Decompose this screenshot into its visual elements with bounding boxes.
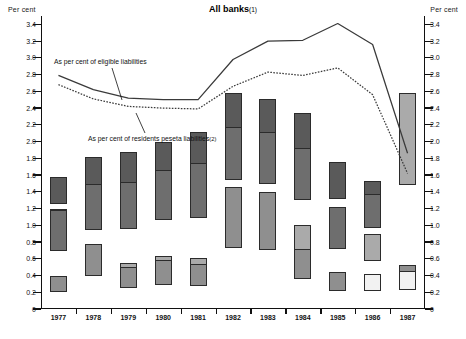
bar-segment-segment-3-mid-grey (155, 170, 172, 220)
y-tick-label-right: 2.2 (430, 121, 452, 128)
y-tick-label-right: 0 (430, 306, 452, 313)
bar-segment-segment-3-mid-grey (364, 194, 381, 227)
x-tick-mark (76, 309, 77, 314)
bar-1986 (364, 199, 381, 310)
y-tick-label-right: 0.2 (430, 289, 452, 296)
x-tick-label-1981: 1981 (190, 314, 206, 321)
y-tick-label-right: 0.8 (430, 239, 452, 246)
bar-segment-segment-3-mid-grey (259, 132, 276, 184)
bar-1982 (225, 131, 242, 309)
bar-segment-segment-6-white (364, 274, 381, 292)
x-tick-label-1985: 1985 (330, 314, 346, 321)
y-tick-label-right: 1.2 (430, 205, 452, 212)
y-tick-label-right: 2.4 (430, 105, 452, 112)
y-tick-label-left: 2.8 (14, 71, 36, 78)
bar-segment-segment-3-mid-grey (329, 207, 346, 249)
y-tick-label-right: 1.8 (430, 155, 452, 162)
y-tick-label-left: 2.4 (14, 105, 36, 112)
bar-1987 (399, 147, 416, 309)
x-tick-mark (111, 309, 112, 314)
bar-segment-segment-3-mid-grey (190, 163, 207, 217)
y-tick-label-left: 1.8 (14, 155, 36, 162)
x-tick-label-1979: 1979 (120, 314, 136, 321)
bar-segment-segment-3-mid-grey (85, 184, 102, 230)
y-tick-label-right: 1.4 (430, 188, 452, 195)
x-tick-mark (285, 309, 286, 314)
y-tick-label-right: 2.8 (430, 71, 452, 78)
bar-segment-segment-1-dark-grey (259, 99, 276, 135)
annotation-text: As per cent of eligible liabilities (54, 58, 147, 65)
x-tick-label-1982: 1982 (225, 314, 241, 321)
bar-1978 (85, 192, 102, 309)
bar-segment-segment-4-light-grey (399, 93, 416, 185)
y-tick-label-right: 3.2 (430, 38, 452, 45)
y-tick-label-left: 2.0 (14, 138, 36, 145)
x-tick-mark (216, 309, 217, 314)
y-tick-label-left: 3.0 (14, 54, 36, 61)
bar-segment-segment-5-pale-grey (85, 244, 102, 277)
y-tick-label-right: 1.0 (430, 222, 452, 229)
bar-segment-segment-5-pale-grey (294, 249, 311, 279)
x-tick-mark (146, 309, 147, 314)
bar-segment-segment-3-mid-grey (294, 148, 311, 200)
chart-title: All banks(1) (0, 4, 466, 14)
y-tick-label-right: 0.6 (430, 255, 452, 262)
y-tick-label-left: 0 (14, 306, 36, 313)
y-tick-label-left: 0.6 (14, 255, 36, 262)
bar-segment-segment-1-dark-grey (329, 162, 346, 199)
bar-segment-segment-5-pale-grey (155, 260, 172, 284)
x-tick-mark (355, 309, 356, 314)
x-tick-mark (181, 309, 182, 314)
y-tick-label-left: 1.4 (14, 188, 36, 195)
bar-segment-segment-5-pale-grey (329, 272, 346, 290)
x-tick-label-1978: 1978 (86, 314, 102, 321)
bar-segment-segment-5-pale-grey (259, 192, 276, 251)
chart-title-text: All banks (209, 4, 249, 14)
y-tick-label-left: 1.2 (14, 205, 36, 212)
x-tick-mark (250, 309, 251, 314)
y-tick-label-left: 0.8 (14, 239, 36, 246)
y-tick-label-right: 3.0 (430, 54, 452, 61)
bar-1980 (155, 180, 172, 309)
y-tick-label-right: 0.4 (430, 272, 452, 279)
annotation-residents-peseta-liabilities: As per cent of residents peseta liabilit… (88, 135, 216, 142)
bar-segment-segment-1-dark-grey (225, 93, 242, 131)
y-tick-label-left: 0.2 (14, 289, 36, 296)
bar-segment-segment-5-pale-grey (120, 267, 137, 288)
y-tick-label-left: 1.0 (14, 222, 36, 229)
bar-segment-segment-3-mid-grey (120, 182, 137, 229)
bar-segment-segment-4-light-grey (364, 234, 381, 262)
bar-segment-segment-5-pale-grey (225, 187, 242, 248)
y-tick-label-right: 2.0 (430, 138, 452, 145)
x-tick-label-1986: 1986 (365, 314, 381, 321)
y-tick-label-right: 1.6 (430, 172, 452, 179)
x-tick-label-1980: 1980 (155, 314, 171, 321)
x-tick-mark (320, 309, 321, 314)
bar-1985 (329, 199, 346, 310)
x-tick-label-1987: 1987 (400, 314, 416, 321)
bar-segment-segment-1-dark-grey (50, 177, 67, 204)
annotation-text: As per cent of residents peseta liabilit… (88, 135, 209, 142)
y-tick-label-left: 2.6 (14, 88, 36, 95)
chart-title-footnote: (1) (249, 6, 257, 13)
bar-1979 (120, 189, 137, 309)
x-tick-label-1984: 1984 (295, 314, 311, 321)
annotation-footnote: (2) (209, 136, 216, 142)
y-tick-label-left: 1.6 (14, 172, 36, 179)
chart-container: Per cent Per cent All banks(1) 000.20.20… (0, 0, 466, 339)
bar-1981 (190, 171, 207, 309)
annotation-eligible-liabilities: As per cent of eligible liabilities (54, 58, 147, 65)
bar-1984 (294, 150, 311, 309)
bar-segment-segment-3-mid-grey (225, 127, 242, 180)
bar-segment-segment-5-pale-grey (190, 264, 207, 287)
bar-1977 (50, 204, 67, 309)
bar-segment-segment-5-pale-grey (50, 276, 67, 293)
y-tick-label-left: 3.4 (14, 21, 36, 28)
y-tick-label-right: 2.6 (430, 88, 452, 95)
x-tick-mark (390, 309, 391, 314)
bar-segment-segment-3-mid-grey (50, 210, 67, 251)
bar-segment-segment-1-dark-grey (294, 113, 311, 150)
y-tick-label-left: 2.2 (14, 121, 36, 128)
bar-1983 (259, 135, 276, 309)
x-tick-label-1983: 1983 (260, 314, 276, 321)
